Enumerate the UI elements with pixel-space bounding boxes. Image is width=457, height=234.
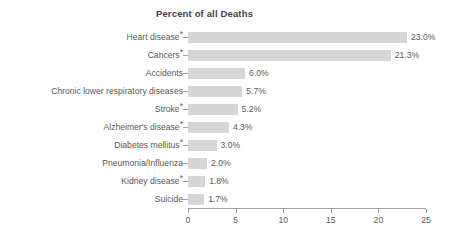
x-axis-tick xyxy=(378,209,379,213)
bar xyxy=(188,194,204,205)
bar xyxy=(188,68,245,79)
bar-value-label: 3.0% xyxy=(221,136,241,154)
bar-row: Heart disease*23.0% xyxy=(0,28,457,46)
bar xyxy=(188,158,207,169)
bar-row: Cancers*21.3% xyxy=(0,46,457,64)
plot-area: Heart disease*23.0%Cancers*21.3%Accident… xyxy=(0,28,457,208)
x-axis-tick xyxy=(188,209,189,213)
bar-row: Stroke*5.2% xyxy=(0,100,457,118)
x-axis-tick-label: 20 xyxy=(374,215,384,225)
bar-value-label: 6.0% xyxy=(249,64,269,82)
bar xyxy=(188,104,238,115)
bar-row: Accidents6.0% xyxy=(0,64,457,82)
category-label: Alzheimer's disease* xyxy=(103,118,183,136)
bar-value-label: 4.3% xyxy=(233,118,253,136)
category-label: Cancers* xyxy=(148,46,183,64)
category-label: Chronic lower respiratory diseases xyxy=(51,82,183,100)
bar-row: Suicide1.7% xyxy=(0,190,457,208)
x-axis-tick xyxy=(426,209,427,213)
bar-value-label: 5.2% xyxy=(242,100,262,118)
x-axis-tick xyxy=(331,209,332,213)
bar-chart-figure: Percent of all Deaths Heart disease*23.0… xyxy=(0,0,457,234)
x-axis-tick-label: 5 xyxy=(233,215,238,225)
bar-row: Chronic lower respiratory diseases5.7% xyxy=(0,82,457,100)
value-axis-ticks: 0510152025 xyxy=(188,209,426,229)
bar xyxy=(188,50,391,61)
category-label: Stroke* xyxy=(155,100,183,118)
x-axis-tick-label: 10 xyxy=(278,215,288,225)
bar-value-label: 1.7% xyxy=(208,190,228,208)
bar-row: Diabetes mellitus*3.0% xyxy=(0,136,457,154)
category-label: Pneumonia/Influenza xyxy=(102,154,183,172)
category-label: Diabetes mellitus* xyxy=(114,136,183,154)
category-label: Kidney disease* xyxy=(121,172,183,190)
category-label: Suicide xyxy=(155,190,183,208)
chart-title: Percent of all Deaths xyxy=(0,8,409,19)
x-axis-tick-label: 25 xyxy=(421,215,431,225)
bar-row: Alzheimer's disease*4.3% xyxy=(0,118,457,136)
x-axis-tick-label: 0 xyxy=(186,215,191,225)
bar-value-label: 21.3% xyxy=(395,46,419,64)
bar-value-label: 5.7% xyxy=(246,82,266,100)
bar-row: Pneumonia/Influenza2.0% xyxy=(0,154,457,172)
bar-value-label: 23.0% xyxy=(411,28,435,46)
bar xyxy=(188,32,407,43)
bar-value-label: 2.0% xyxy=(211,154,231,172)
bar xyxy=(188,86,242,97)
category-label: Heart disease* xyxy=(127,28,183,46)
bar xyxy=(188,140,217,151)
bar-row: Kidney disease*1.8% xyxy=(0,172,457,190)
bar xyxy=(188,122,229,133)
x-axis-tick xyxy=(283,209,284,213)
x-axis-tick-label: 15 xyxy=(326,215,336,225)
bar xyxy=(188,176,205,187)
category-label: Accidents xyxy=(146,64,183,82)
x-axis-tick xyxy=(236,209,237,213)
bar-value-label: 1.8% xyxy=(209,172,229,190)
